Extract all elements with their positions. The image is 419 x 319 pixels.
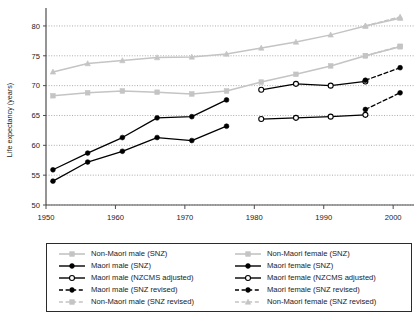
legend-marker-icon — [233, 284, 263, 296]
x-tick-label: 1980 — [246, 213, 263, 222]
series-group — [50, 14, 403, 183]
data-point-filled-circle — [224, 124, 229, 129]
y-tick-label: 65 — [32, 111, 40, 120]
data-point-filled-circle — [85, 151, 90, 156]
legend-item-label: Non-Maori male (SNZ revised) — [91, 296, 194, 308]
legend-swatch-icon — [57, 296, 87, 308]
data-point-square — [246, 252, 251, 257]
series-line — [261, 81, 365, 89]
x-tick-label: 1990 — [315, 213, 332, 222]
legend-item[interactable]: Non-Maori female (SNZ) — [233, 248, 411, 260]
legend-marker-icon — [57, 272, 87, 284]
data-point-square — [224, 89, 229, 94]
chart-series — [51, 124, 229, 184]
legend-item[interactable]: Non-Maori female (SNZ revised) — [233, 296, 411, 308]
data-point-filled-circle — [246, 264, 251, 269]
y-tick-label: 60 — [32, 141, 40, 150]
chart-series — [50, 15, 403, 74]
legend-item[interactable]: Maori male (NZCMS adjusted) — [57, 272, 229, 284]
data-point-square — [398, 44, 403, 49]
data-point-square — [328, 64, 333, 69]
legend-marker-icon — [57, 284, 87, 296]
legend-swatch-icon — [57, 260, 87, 272]
life-expectancy-figure: 50556065707580195019601970198019902000 L… — [0, 0, 419, 319]
legend-marker-icon — [57, 248, 87, 260]
data-point-square — [85, 90, 90, 95]
data-point-filled-circle — [120, 135, 125, 140]
legend-swatch-icon — [57, 248, 87, 260]
legend-item-label: Maori male (SNZ revised) — [91, 284, 178, 296]
tick-labels-group: 50556065707580195019601970198019902000 — [32, 22, 402, 222]
legend-item-label: Non-Maori female (SNZ revised) — [267, 296, 376, 308]
data-point-open-circle — [363, 112, 368, 117]
data-point-filled-circle — [51, 179, 56, 184]
legend-item-label: Maori male (NZCMS adjusted) — [91, 272, 194, 284]
data-point-filled-circle — [398, 65, 403, 70]
data-point-square — [259, 80, 264, 85]
legend-item[interactable]: Maori female (SNZ revised) — [233, 284, 411, 296]
legend-swatch-icon — [57, 284, 87, 296]
legend-item[interactable]: Maori male (SNZ revised) — [57, 284, 229, 296]
series-line — [53, 100, 227, 170]
series-line — [261, 115, 365, 119]
legend-item[interactable]: Non-Maori male (SNZ revised) — [57, 296, 229, 308]
data-point-open-circle — [293, 115, 298, 120]
legend-marker-icon — [233, 296, 263, 308]
legend-marker-icon — [233, 260, 263, 272]
legend-marker-icon — [233, 272, 263, 284]
legend-column-female: Non-Maori female (SNZ)Maori female (SNZ)… — [229, 248, 411, 311]
data-point-open-circle — [259, 87, 264, 92]
data-point-open-circle — [259, 117, 264, 122]
chart-plot-area: 50556065707580195019601970198019902000 L… — [0, 0, 419, 238]
legend-item[interactable]: Maori female (NZCMS adjusted) — [233, 272, 411, 284]
legend-marker-icon — [57, 260, 87, 272]
data-point-open-circle — [70, 276, 75, 281]
x-tick-label: 1970 — [176, 213, 193, 222]
data-point-filled-circle — [189, 114, 194, 119]
data-point-filled-circle — [363, 78, 368, 83]
legend-swatch-icon — [233, 272, 263, 284]
chart-series — [51, 98, 229, 173]
chart-legend: Non-Maori male (SNZ)Maori male (SNZ)Maor… — [46, 243, 412, 312]
legend-marker-icon — [233, 248, 263, 260]
y-axis-label-group: Life expectancy (years) — [5, 83, 14, 157]
data-point-triangle — [397, 14, 402, 19]
x-tick-label: 1950 — [38, 213, 55, 222]
data-point-filled-circle — [155, 135, 160, 140]
legend-swatch-icon — [233, 284, 263, 296]
legend-item-label: Maori female (SNZ) — [267, 260, 333, 272]
data-point-filled-circle — [51, 167, 56, 172]
data-point-square — [190, 92, 195, 97]
chart-series — [363, 90, 403, 112]
data-point-filled-circle — [70, 288, 75, 293]
y-tick-label: 75 — [32, 52, 40, 61]
y-tick-label: 55 — [32, 171, 40, 180]
series-line — [365, 93, 400, 110]
x-tick-label: 1960 — [107, 213, 124, 222]
data-point-filled-circle — [85, 160, 90, 165]
data-point-square — [294, 72, 299, 77]
data-point-square — [70, 252, 75, 257]
y-tick-label: 80 — [32, 22, 40, 31]
y-tick-label: 50 — [32, 201, 40, 210]
data-point-filled-circle — [155, 115, 160, 120]
legend-marker-icon — [57, 296, 87, 308]
x-tick-label: 2000 — [385, 213, 402, 222]
data-point-open-circle — [293, 81, 298, 86]
data-point-filled-circle — [363, 107, 368, 112]
chart-series — [363, 65, 403, 82]
data-point-filled-circle — [120, 149, 125, 154]
data-point-filled-circle — [246, 288, 251, 293]
legend-item-label: Non-Maori male (SNZ) — [91, 248, 167, 260]
axes-group — [43, 8, 414, 209]
legend-column-male: Non-Maori male (SNZ)Maori male (SNZ)Maor… — [47, 248, 229, 311]
y-tick-label: 70 — [32, 81, 40, 90]
data-point-open-circle — [246, 276, 251, 281]
series-line — [53, 126, 227, 181]
legend-item[interactable]: Non-Maori male (SNZ) — [57, 248, 229, 260]
legend-item[interactable]: Maori female (SNZ) — [233, 260, 411, 272]
data-point-square — [363, 53, 368, 58]
data-point-filled-circle — [70, 264, 75, 269]
legend-swatch-icon — [233, 260, 263, 272]
legend-item[interactable]: Maori male (SNZ) — [57, 260, 229, 272]
